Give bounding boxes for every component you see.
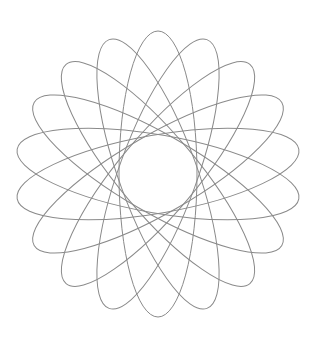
ellipse-rosette-diagram bbox=[0, 0, 319, 344]
background bbox=[0, 0, 319, 344]
